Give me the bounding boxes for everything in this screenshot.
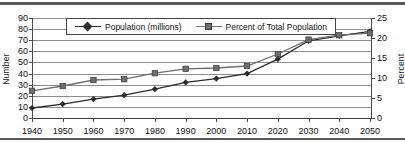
square-data-marker [152,71,157,76]
x-tick-mark [216,118,217,122]
diamond-data-marker [90,96,96,102]
right-tick-label: 0 [377,113,395,123]
x-tick-mark [278,118,279,122]
diamond-data-marker [121,92,127,98]
left-tick-label: 50 [6,57,28,67]
x-tick-mark [155,118,156,122]
right-tick-label: 15 [377,53,395,63]
square-marker-icon [196,22,222,31]
square-data-marker [306,37,311,42]
series-line [32,33,370,91]
left-tick-label: 40 [6,69,28,79]
square-data-marker [337,33,342,38]
left-tick-label: 60 [6,46,28,56]
right-axis-title: Percent [396,47,405,91]
x-tick-mark [63,118,64,122]
diamond-data-marker [152,86,158,92]
square-data-marker [244,63,249,68]
square-data-marker [60,83,65,88]
left-tick-label: 0 [6,113,28,123]
right-tick-mark [371,98,375,99]
x-axis [32,118,370,124]
top-divider-rule [0,2,405,5]
square-data-marker [183,66,188,71]
x-tick-mark [339,118,340,122]
left-tick-label: 30 [6,80,28,90]
right-tick-mark [371,118,375,119]
right-tick-mark [371,78,375,79]
right-tick-mark [371,18,375,19]
x-tick-mark [124,118,125,122]
x-tick-mark [186,118,187,122]
x-tick-mark [93,118,94,122]
x-tick-mark [309,118,310,122]
plot-area-wrapper: Number Percent 0102030405060708090 05101… [0,8,405,136]
diamond-data-marker [244,70,250,76]
diamond-data-marker [213,75,219,81]
diamond-data-marker [29,105,35,111]
right-tick-label: 5 [377,93,395,103]
legend-label-population: Population (millions) [105,22,182,32]
square-data-marker [214,65,219,70]
x-tick-mark [247,118,248,122]
x-tick-mark [370,118,371,122]
chart-figure: Number Percent 0102030405060708090 05101… [0,0,405,143]
x-tick-mark [32,118,33,122]
left-tick-label: 80 [6,24,28,34]
bottom-divider-rule [0,138,405,140]
square-data-marker [91,77,96,82]
right-tick-label: 10 [377,73,395,83]
legend-label-percent: Percent of Total Population [226,22,327,32]
square-data-marker [367,31,372,36]
series-line [32,31,370,108]
right-tick-mark [371,38,375,39]
square-data-marker [121,77,126,82]
left-tick-label: 70 [6,35,28,45]
diamond-data-marker [60,101,66,107]
square-data-marker [275,51,280,56]
x-tick-label: 2050 [350,126,390,136]
square-data-marker [29,88,34,93]
series-percent [29,31,372,94]
legend-item-percent: Percent of Total Population [196,22,327,32]
left-tick-label: 90 [6,13,28,23]
diamond-marker-icon [75,22,101,31]
chart-legend: Population (millions) Percent of Total P… [66,18,336,35]
legend-item-population: Population (millions) [75,22,182,32]
series-population [29,28,373,111]
diamond-data-marker [183,79,189,85]
right-tick-label: 25 [377,13,395,23]
left-tick-label: 20 [6,91,28,101]
left-tick-label: 10 [6,102,28,112]
right-tick-mark [371,58,375,59]
right-tick-label: 20 [377,33,395,43]
